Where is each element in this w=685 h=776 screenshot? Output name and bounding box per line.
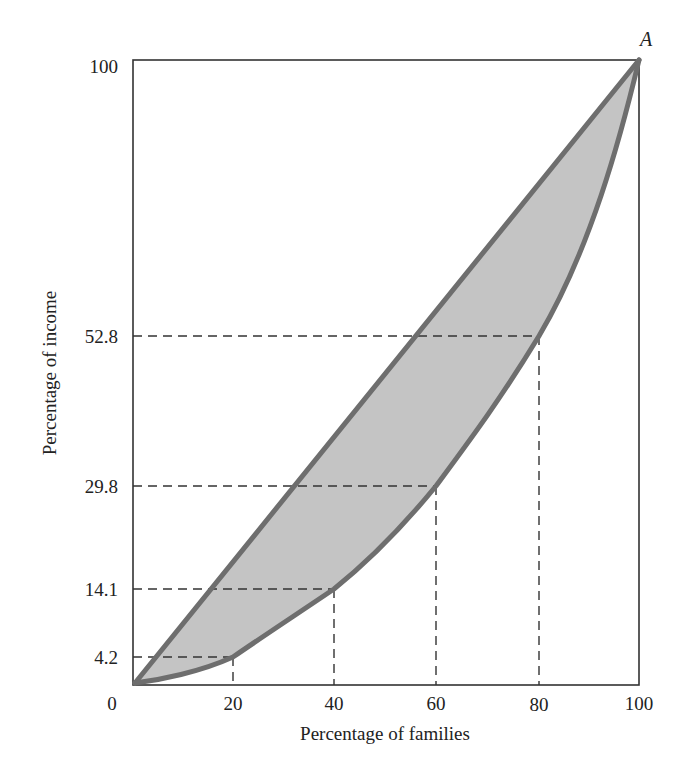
y-tick-14.1: 14.1	[85, 579, 118, 600]
x-axis-title: Percentage of families	[300, 723, 470, 744]
y-tick-29.8: 29.8	[85, 476, 118, 497]
y-tick-52.8: 52.8	[85, 326, 118, 347]
x-tick-20: 20	[224, 693, 243, 714]
x-tick-40: 40	[325, 693, 344, 714]
y-tick-4.2: 4.2	[94, 647, 118, 668]
origin-label: 0	[107, 693, 117, 714]
x-tick-100: 100	[625, 693, 654, 714]
x-tick-60: 60	[427, 693, 446, 714]
y-axis-title: Percentage of income	[39, 291, 60, 456]
x-tick-80: 80	[530, 694, 549, 715]
lorenz-curve-chart: 100 52.8 29.8 14.1 4.2 0 20 40 60 80 100…	[0, 0, 685, 776]
equality-line	[135, 60, 639, 683]
point-a-label: A	[638, 28, 653, 50]
y-tick-100: 100	[90, 56, 119, 77]
